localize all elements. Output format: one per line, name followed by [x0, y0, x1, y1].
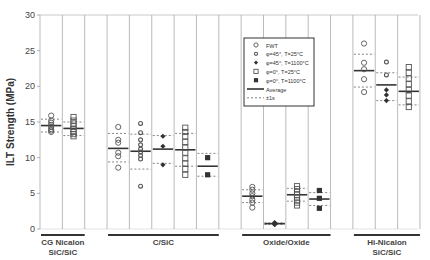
- marker-circle: [250, 205, 255, 210]
- marker-filled-diamond: [384, 87, 389, 92]
- marker-circle: [49, 113, 54, 118]
- legend-label: φ=45°, T=25°C: [266, 51, 303, 57]
- group-labels: CG NicalonSiC/SiCC/SiCOxide/OxideHi-Nica…: [41, 235, 420, 257]
- series-column: [108, 124, 128, 170]
- marker-open-diamond: [384, 73, 388, 77]
- marker-filled-square: [317, 206, 322, 211]
- y-tick-label: 0: [30, 224, 35, 234]
- y-tick-label: 25: [25, 46, 35, 56]
- series-column: [287, 184, 307, 208]
- marker-open-diamond: [139, 184, 143, 188]
- series-column: [175, 125, 195, 177]
- marker-filled-square: [317, 188, 322, 193]
- marker-filled-square: [205, 155, 210, 160]
- y-axis: 051015202530: [25, 10, 40, 234]
- marker-open-diamond: [139, 143, 143, 147]
- marker-open-square: [406, 70, 411, 75]
- ilt-strength-chart: 051015202530 CG NicalonSiC/SiCC/SiCOxide…: [0, 0, 430, 260]
- y-axis-label: ILT Strength (MPa): [5, 78, 16, 166]
- marker-filled-diamond: [384, 92, 389, 97]
- marker-open-square: [183, 139, 188, 144]
- marker-open-diamond: [384, 60, 388, 64]
- series-column: [63, 114, 83, 138]
- series-column: [197, 153, 217, 177]
- marker-open-square: [183, 150, 188, 155]
- group-label: CG Nicalon: [41, 238, 84, 247]
- series-column: [354, 41, 374, 95]
- marker-circle: [361, 77, 366, 82]
- legend: FWTφ=45°, T=25°Cφ=45°, T=1100°Cφ=0°, T=2…: [244, 38, 314, 106]
- series-column: [309, 188, 329, 211]
- series-column: [153, 134, 173, 168]
- data-series: [41, 41, 419, 227]
- series-column: [130, 121, 150, 188]
- y-tick-label: 10: [25, 153, 35, 163]
- legend-label: φ=45°, T=1100°C: [266, 60, 309, 66]
- marker-open-square: [406, 93, 411, 98]
- y-tick-label: 15: [25, 117, 35, 127]
- marker-filled-square: [205, 172, 210, 177]
- marker-circle: [361, 60, 366, 65]
- legend-label: Average: [266, 87, 286, 93]
- marker-open-square: [406, 82, 411, 87]
- marker-open-square: [406, 99, 411, 104]
- series-column: [265, 220, 285, 227]
- marker-filled-square: [254, 78, 258, 82]
- group-label: Oxide/Oxide: [263, 238, 310, 247]
- group-label: C/SiC: [153, 238, 175, 247]
- marker-open-diamond: [139, 121, 143, 125]
- marker-open-diamond: [139, 131, 143, 135]
- y-tick-label: 5: [30, 188, 35, 198]
- legend-label: ±1s: [266, 95, 275, 101]
- series-column: [384, 87, 389, 103]
- series-column: [242, 184, 262, 210]
- series-column: [399, 64, 419, 109]
- group-label-line2: SiC/SiC: [48, 248, 77, 257]
- marker-circle: [361, 41, 366, 46]
- marker-circle: [116, 165, 121, 170]
- marker-circle: [116, 154, 121, 159]
- marker-open-square: [183, 172, 188, 177]
- marker-filled-diamond: [160, 134, 165, 139]
- column-dividers: [40, 15, 420, 229]
- marker-open-square: [183, 156, 188, 161]
- y-tick-label: 20: [25, 81, 35, 91]
- group-label: Hi-Nicalon: [367, 238, 407, 247]
- legend-label: φ=0°, T=1100°C: [266, 78, 306, 84]
- marker-filled-diamond: [160, 144, 165, 149]
- marker-open-square: [183, 166, 188, 171]
- legend-label: FWT: [266, 43, 279, 49]
- y-tick-label: 30: [25, 10, 35, 20]
- marker-circle: [361, 89, 366, 94]
- series-column: [41, 113, 61, 135]
- marker-open-square: [183, 161, 188, 166]
- marker-filled-square: [317, 196, 322, 201]
- marker-circle: [116, 124, 121, 129]
- marker-open-diamond: [139, 138, 143, 142]
- group-label-line2: SiC/SiC: [372, 248, 401, 257]
- legend-label: φ=0°, T=25°C: [266, 69, 300, 75]
- marker-open-square: [406, 64, 411, 69]
- marker-filled-diamond: [384, 98, 389, 103]
- marker-open-square: [71, 114, 76, 119]
